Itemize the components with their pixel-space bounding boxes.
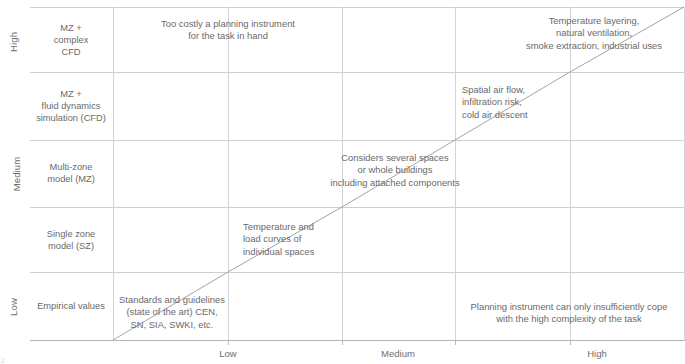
annotation-spatial-air-flow: Spatial air flow, infiltration risk, col…	[462, 84, 592, 121]
annotation-standards-guidelines: Standards and guidelines (state of the a…	[113, 294, 231, 331]
corner-page-mark: 2	[1, 357, 5, 364]
grid-hline-4	[30, 272, 685, 273]
grid-hline-top	[30, 7, 685, 8]
row-label-mz-complex-cfd: MZ + complex CFD	[30, 22, 112, 59]
grid-hline-3	[30, 207, 685, 208]
annotation-temperature-load-curves: Temperature and load curves of individua…	[243, 221, 353, 258]
annotation-too-costly: Too costly a planning instrument for the…	[118, 18, 338, 43]
x-axis-tick-2	[342, 340, 343, 345]
x-axis-tick-4	[570, 340, 571, 345]
row-label-empirical-values: Empirical values	[30, 300, 112, 312]
y-axis-tick-medium: Medium	[0, 142, 28, 206]
x-axis-tick-high: High	[512, 348, 682, 359]
row-label-multi-zone: Multi-zone model (MZ)	[30, 161, 112, 185]
x-axis-tick-1	[228, 340, 229, 345]
x-axis-tick-low: Low	[143, 348, 313, 359]
grid-hline-2	[30, 140, 685, 141]
diagram-canvas: 2 High Medium Low MZ + complex CFD MZ +	[0, 0, 685, 364]
x-axis-baseline	[30, 340, 685, 341]
x-axis-tick-3	[455, 340, 456, 345]
annotation-temperature-layering: Temperature layering, natural ventilatio…	[508, 15, 680, 52]
grid-vline-rowlabel-sep	[113, 7, 114, 340]
row-label-single-zone: Single zone model (SZ)	[30, 228, 112, 252]
grid-vline-1	[228, 7, 229, 340]
annotation-planning-instrument-insufficient: Planning instrument can only insufficien…	[455, 301, 683, 326]
row-label-mz-fluid-cfd: MZ + fluid dynamics simulation (CFD)	[30, 88, 112, 125]
x-axis-tick-medium: Medium	[313, 348, 483, 359]
annotation-considers-several-spaces: Considers several spaces or whole buildi…	[300, 152, 490, 189]
grid-hline-1	[30, 72, 685, 73]
grid-vline-4	[570, 7, 571, 340]
y-axis-tick-high: High	[0, 13, 28, 71]
y-axis-tick-low: Low	[0, 281, 28, 333]
